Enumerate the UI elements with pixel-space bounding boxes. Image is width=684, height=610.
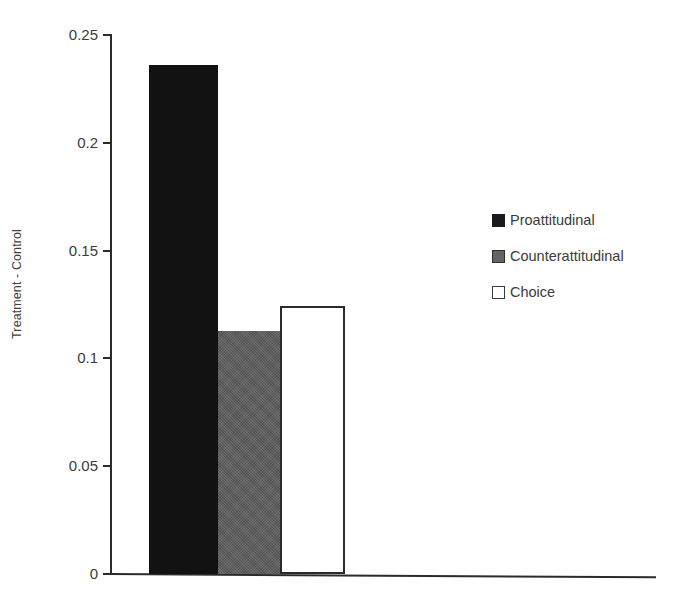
legend-item-proattitudinal[interactable]: Proattitudinal	[492, 205, 677, 235]
legend-item-counterattitudinal[interactable]: Counterattitudinal	[492, 241, 677, 271]
bar-counterattitudinal	[218, 331, 280, 574]
bar-proattitudinal	[149, 65, 218, 574]
y-axis-tick-0-1	[103, 357, 111, 359]
legend-item-choice[interactable]: Choice	[492, 277, 677, 307]
y-axis-tick-labels: 0.250.20.150.10.050	[28, 0, 98, 610]
y-axis-tick-label: 0.15	[36, 243, 98, 258]
y-axis-tick-0-25	[103, 34, 111, 36]
y-axis-tick-label: 0	[36, 566, 98, 581]
bar-choice	[280, 306, 345, 574]
bar-chart-figure: Treatment - Control 0.250.20.150.10.050 …	[0, 0, 684, 610]
y-axis-line	[110, 34, 112, 575]
y-axis-tick-0-15	[103, 250, 111, 252]
y-axis-tick-label: 0.1	[36, 350, 98, 365]
gray-square-icon	[492, 250, 505, 263]
legend-item-label: Proattitudinal	[510, 213, 595, 228]
legend-item-label: Choice	[510, 285, 555, 300]
y-axis-tick-0	[103, 573, 111, 575]
y-axis-tick-label: 0.2	[36, 135, 98, 150]
chart-legend: ProattitudinalCounterattitudinalChoice	[492, 205, 677, 313]
y-axis-tick-label: 0.25	[36, 27, 98, 42]
legend-item-label: Counterattitudinal	[510, 249, 624, 264]
black-square-icon	[492, 214, 505, 227]
white-square-icon	[492, 286, 505, 299]
y-axis-tick-0-05	[103, 465, 111, 467]
bar-group	[149, 34, 337, 574]
y-axis-tick-label: 0.05	[36, 458, 98, 473]
y-axis-tick-0-2	[103, 142, 111, 144]
